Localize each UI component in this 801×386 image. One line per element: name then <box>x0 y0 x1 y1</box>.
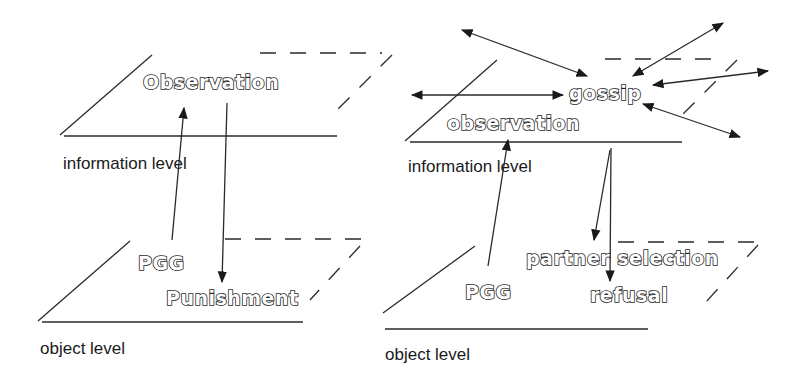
right-panel: gossip observation information level PGG… <box>383 23 768 364</box>
node-observation: Observation <box>143 71 279 93</box>
node-observation-right: observation <box>447 112 580 134</box>
arrow-observation-to-punishment <box>222 103 227 282</box>
object-level-label-right: object level <box>385 345 470 364</box>
node-pgg-right: PGG <box>465 281 512 303</box>
info-level-label: information level <box>63 154 187 173</box>
info-level-label-right: information level <box>408 157 532 176</box>
left-panel: Observation information level PGG Punish… <box>38 53 392 358</box>
node-partner-selection: partner selection <box>526 247 719 269</box>
object-level-label: object level <box>40 339 125 358</box>
node-gossip: gossip <box>569 82 641 104</box>
node-refusal: refusal <box>590 284 668 306</box>
two-level-diagram: Observation information level PGG Punish… <box>0 0 801 386</box>
arrow-pgg-to-observation <box>172 108 184 240</box>
arrow-observation-to-partner-selection <box>594 150 610 240</box>
node-punishment: Punishment <box>166 287 299 309</box>
left-object-plane <box>38 239 372 322</box>
node-pgg: PGG <box>138 252 185 274</box>
